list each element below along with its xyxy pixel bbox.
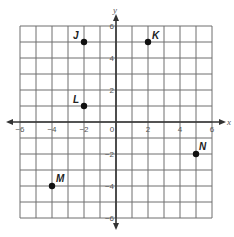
x-axis-right-arrow-icon <box>219 119 226 125</box>
x-tick-label: 6 <box>210 125 215 134</box>
x-tick-label: 4 <box>178 125 183 134</box>
x-tick-label: 0 <box>110 125 115 134</box>
x-tick-label: −6 <box>15 125 25 134</box>
y-tick-label: −6 <box>105 214 115 223</box>
y-tick-label: 6 <box>110 22 115 31</box>
x-tick-label: −4 <box>47 125 57 134</box>
point-J: J <box>73 30 87 45</box>
x-tick-label: −2 <box>79 125 89 134</box>
point-marker-icon <box>81 39 87 45</box>
point-M: M <box>49 173 65 189</box>
point-label: N <box>199 141 207 152</box>
coordinate-plane: xy−6−4−20246642−2−4−6 JKLMN <box>0 0 234 237</box>
y-tick-label: 4 <box>110 54 115 63</box>
point-K: K <box>145 30 160 45</box>
y-axis-up-arrow-icon <box>113 14 119 21</box>
x-tick-label: 2 <box>146 125 151 134</box>
y-axis-label: y <box>112 5 117 15</box>
y-tick-label: −4 <box>105 182 115 191</box>
y-tick-label: 2 <box>110 86 115 95</box>
point-label: L <box>73 94 79 105</box>
point-marker-icon <box>145 39 151 45</box>
point-L: L <box>73 94 87 109</box>
x-axis-left-arrow-icon <box>6 119 13 125</box>
y-tick-label: −2 <box>105 150 115 159</box>
point-N: N <box>193 141 207 157</box>
plotted-points: JKLMN <box>49 30 207 189</box>
x-axis-label: x <box>226 117 231 127</box>
point-label: J <box>73 30 79 41</box>
axes <box>6 14 226 230</box>
point-marker-icon <box>49 183 55 189</box>
point-label: M <box>56 173 65 184</box>
point-label: K <box>152 30 160 41</box>
point-marker-icon <box>81 103 87 109</box>
y-axis-down-arrow-icon <box>113 223 119 230</box>
tick-labels: xy−6−4−20246642−2−4−6 <box>15 5 231 223</box>
